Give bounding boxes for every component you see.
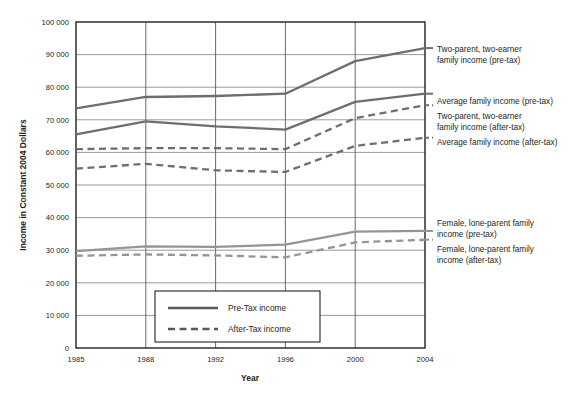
series-annotation-3: Average family income (after-tax) xyxy=(437,138,558,147)
income-line-chart: 010 00020 00030 00040 00050 00060 00070 … xyxy=(0,0,578,398)
series-annotation-5: Female, lone-parent family xyxy=(437,245,535,254)
y-tick-label: 20 000 xyxy=(46,279,69,288)
y-tick-label: 70 000 xyxy=(46,116,69,125)
series-annotation-1: Average family income (pre-tax) xyxy=(437,97,553,106)
chart-legend: Pre-Tax incomeAfter-Tax income xyxy=(155,291,320,342)
y-axis-title: Income in Constant 2004 Dollars xyxy=(18,119,28,251)
x-tick-label: 1988 xyxy=(137,355,154,364)
series-annotation-4: Female, lone-parent family xyxy=(437,219,535,228)
legend-label-1: After-Tax income xyxy=(228,324,291,334)
chart-figure: 010 00020 00030 00040 00050 00060 00070 … xyxy=(0,0,578,398)
x-axis-title: Year xyxy=(241,373,260,383)
y-tick-label: 100 000 xyxy=(42,18,69,27)
y-tick-label: 30 000 xyxy=(46,246,69,255)
y-tick-label: 90 000 xyxy=(46,50,69,59)
x-tick-label: 1985 xyxy=(68,355,85,364)
y-tick-label: 80 000 xyxy=(46,83,69,92)
y-tick-label: 60 000 xyxy=(46,148,69,157)
legend-box xyxy=(155,291,320,342)
series-annotation-0: Two-parent, two-earner xyxy=(437,45,522,54)
x-tick-label: 1992 xyxy=(207,355,224,364)
series-annotation-0: family income (pre-tax) xyxy=(437,56,521,65)
y-tick-label: 0 xyxy=(65,344,69,353)
y-tick-label: 40 000 xyxy=(46,213,69,222)
series-annotation-2: Two-parent, two-earner xyxy=(437,112,522,121)
series-annotation-4: income (pre-tax) xyxy=(437,230,497,239)
series-annotation-5: income (after-tax) xyxy=(437,256,501,265)
series-annotation-2: family income (after-tax) xyxy=(437,123,525,132)
series-annotations: Two-parent, two-earnerfamily income (pre… xyxy=(425,45,558,265)
x-tick-label: 2000 xyxy=(347,355,364,364)
y-tick-label: 10 000 xyxy=(46,311,69,320)
x-tick-label: 2004 xyxy=(417,355,434,364)
x-axis-tick-labels: 198519881992199620002004 xyxy=(68,355,434,364)
y-axis-tick-labels: 010 00020 00030 00040 00050 00060 00070 … xyxy=(42,18,69,353)
y-tick-label: 50 000 xyxy=(46,181,69,190)
x-tick-label: 1996 xyxy=(277,355,294,364)
legend-label-0: Pre-Tax income xyxy=(228,303,287,313)
